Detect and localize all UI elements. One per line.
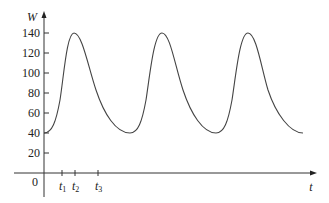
- t3-label: t3: [95, 179, 102, 194]
- y-tick-label-140: 140: [22, 26, 40, 40]
- y-tick-label-40: 40: [28, 126, 40, 140]
- y-tick-label-20: 20: [28, 146, 40, 160]
- y-tick-label-120: 120: [22, 46, 40, 60]
- t2-label: t2: [72, 179, 79, 194]
- x-axis-label: t: [309, 180, 313, 194]
- data-curve: [44, 33, 303, 133]
- periodic-chart: 140 120 100 80 60 40 20 0 W t t1 t2 t3: [0, 0, 329, 203]
- y-axis-label: W: [27, 10, 38, 24]
- y-tick-label-100: 100: [22, 66, 40, 80]
- y-axis-arrow-icon: [42, 11, 47, 18]
- x-axis-arrow-icon: [310, 171, 317, 176]
- y-tick-label-80: 80: [28, 86, 40, 100]
- origin-label: 0: [32, 175, 38, 189]
- y-tick-label-60: 60: [28, 106, 40, 120]
- t1-label: t1: [59, 179, 66, 194]
- y-ticks: [44, 33, 49, 153]
